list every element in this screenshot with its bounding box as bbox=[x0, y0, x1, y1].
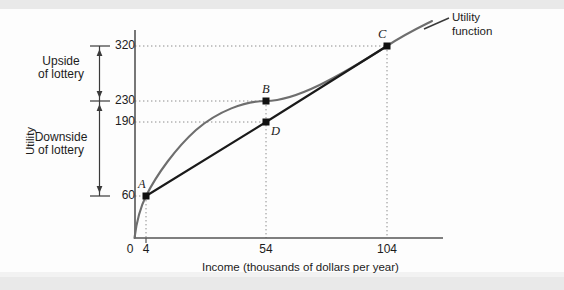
bracket-label-downside: Downside of lottery bbox=[26, 131, 96, 158]
axis-lines bbox=[135, 30, 443, 238]
point-label-a: A bbox=[138, 177, 146, 191]
point-marker-c bbox=[384, 43, 391, 50]
point-marker-d bbox=[263, 119, 270, 126]
point-label-c: C bbox=[378, 27, 386, 41]
utility-function-curve bbox=[135, 21, 433, 238]
dotted-guide-lines bbox=[135, 46, 387, 238]
utility-function-callout-line2: function bbox=[452, 25, 492, 39]
x-tick-label-104: 104 bbox=[375, 243, 399, 256]
y-tick-label-190: 190 bbox=[95, 115, 135, 128]
utility-function-callout-line1: Utility bbox=[452, 11, 492, 25]
utility-function-figure: 320 230 190 60 0 4 54 104 Income (thousa… bbox=[0, 0, 564, 290]
bracket-label-upside: Upside of lottery bbox=[30, 55, 92, 82]
bracket-label-downside-line1: Downside bbox=[26, 131, 96, 144]
point-marker-a bbox=[143, 193, 150, 200]
bracket-upside-of-lottery bbox=[90, 46, 110, 101]
point-marker-b bbox=[263, 98, 270, 105]
y-tick-label-320: 320 bbox=[95, 39, 135, 52]
y-tick-label-230: 230 bbox=[95, 94, 135, 107]
x-tick-label-54: 54 bbox=[254, 243, 278, 256]
point-label-d: D bbox=[271, 124, 280, 138]
bracket-label-downside-line2: of lottery bbox=[26, 144, 96, 157]
x-tick-label-4: 4 bbox=[134, 243, 158, 256]
bracket-label-upside-line2: of lottery bbox=[30, 68, 92, 81]
y-tick-label-60: 60 bbox=[95, 189, 135, 202]
bracket-label-upside-line1: Upside bbox=[30, 55, 92, 68]
utility-function-callout-label: Utility function bbox=[452, 11, 492, 39]
point-label-b: B bbox=[262, 82, 270, 96]
x-axis-title: Income (thousands of dollars per year) bbox=[202, 261, 399, 274]
